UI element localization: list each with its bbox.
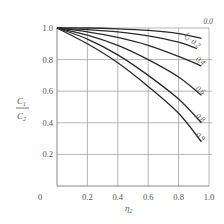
y-tick-label: 0.8	[42, 55, 53, 65]
y-tick-label: 0.2	[42, 149, 53, 159]
y-tick-label: 0.6	[42, 86, 53, 96]
x-tick-label: 0.8	[173, 192, 184, 202]
y-axis-label: C1 C2	[16, 96, 29, 122]
x-tick-label: 0.4	[112, 192, 123, 202]
y-tick-label: 0.4	[42, 118, 53, 128]
axes	[57, 28, 212, 186]
curve-label: 0.0	[203, 17, 213, 26]
x-tick-label: 0.6	[143, 192, 154, 202]
x-tick-label: 1.0	[204, 192, 215, 202]
x-axis-label: η2	[125, 203, 132, 214]
chart: 0.20.40.60.81.0 0.20.40.60.81.0 0.00.20.…	[0, 0, 224, 224]
curve-label: 0.6	[194, 84, 207, 97]
x-tick-label: 0.2	[82, 192, 93, 202]
curve-label: 0.8	[194, 111, 207, 124]
curves	[57, 28, 201, 142]
curve-label: 0.9	[194, 130, 207, 143]
curve-xi-0-9	[57, 28, 201, 142]
curve-label: 0.2	[190, 37, 203, 50]
origin-label: 0	[38, 192, 42, 202]
y-tick-labels: 0.20.40.60.81.0	[42, 23, 53, 159]
curve-label: 0.4	[194, 54, 207, 67]
svg-text:C2: C2	[17, 111, 26, 122]
curve-labels: 0.00.20.40.60.80.9ξ2	[182, 17, 213, 143]
x-tick-labels: 0.20.40.60.81.0	[82, 192, 214, 202]
svg-text:C1: C1	[17, 96, 26, 107]
y-tick-label: 1.0	[42, 23, 53, 33]
